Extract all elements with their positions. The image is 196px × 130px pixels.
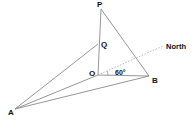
edge-A-Q [15, 44, 98, 109]
label-P: P [97, 0, 103, 9]
label-angle: 60° [115, 69, 126, 76]
label-O: O [89, 69, 95, 78]
label-north: North [166, 42, 186, 51]
edge-P-B [101, 9, 149, 76]
label-B: B [152, 76, 158, 85]
diagram-canvas: P Q O B A North 60° [0, 0, 196, 130]
label-A: A [8, 108, 14, 117]
angle-arc [107, 71, 108, 75]
edge-A-B [15, 76, 149, 109]
label-Q: Q [101, 40, 107, 49]
